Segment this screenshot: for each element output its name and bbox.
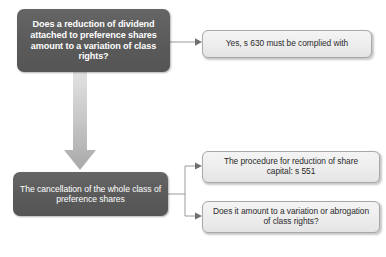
node-cancellation-preference-shares[interactable]: The cancellation of the whole class of p…: [13, 172, 168, 216]
connector-question-to-answer: [170, 36, 204, 48]
node-question-dividend[interactable]: Does a reduction of dividend attached to…: [17, 9, 170, 72]
node-procedure-s551[interactable]: The procedure for reduction of share cap…: [202, 151, 380, 183]
flowchart-canvas: Does a reduction of dividend attached to…: [0, 0, 386, 257]
node-question-abrogation[interactable]: Does it amount to a variation or abrogat…: [202, 201, 380, 233]
node-answer-s630[interactable]: Yes, s 630 must be complied with: [202, 30, 372, 58]
big-down-arrow: [60, 72, 100, 172]
